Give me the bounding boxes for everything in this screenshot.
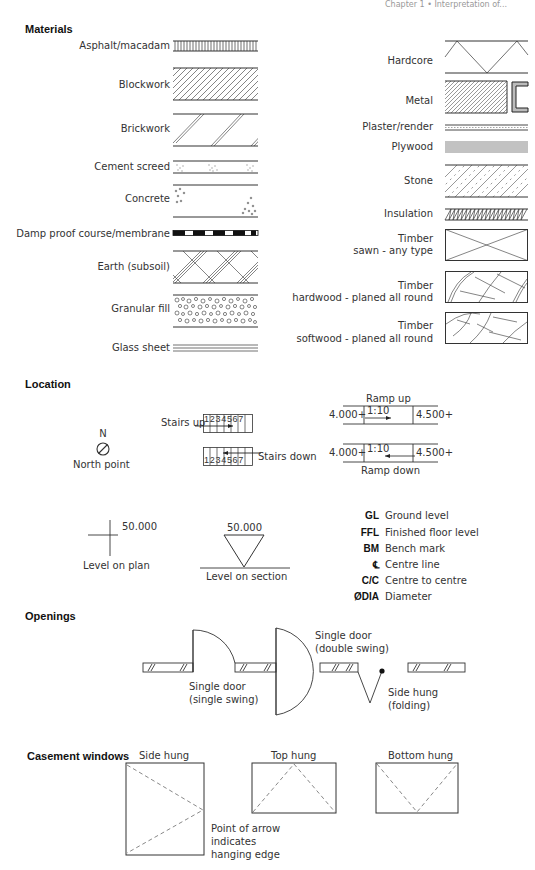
casement-note-1: Point of arrow: [211, 823, 280, 834]
north-point-label: North point: [73, 459, 130, 470]
abbr-code: GL: [345, 510, 379, 521]
top-hung-title: Top hung: [271, 750, 316, 761]
label-metal: Metal: [405, 95, 433, 106]
double-swing-line2: (double swing): [315, 643, 389, 654]
stairs-up-steps: 1234567: [204, 414, 244, 424]
side-hung-window: [125, 762, 205, 856]
hardcore-symbol: [445, 40, 528, 74]
label-stone: Stone: [404, 175, 433, 186]
abbr-meaning: Ground level: [385, 510, 449, 521]
label-granular-fill: Granular fill: [111, 303, 170, 314]
label-cement-screed: Cement screed: [94, 161, 170, 172]
level-section-value: 50.000: [227, 522, 262, 533]
concrete-symbol: [173, 184, 258, 218]
label-timber-hardwood: Timber: [398, 280, 433, 291]
label-concrete: Concrete: [125, 193, 170, 204]
label-asphalt: Asphalt/macadam: [79, 40, 170, 51]
abbr-code: ØDIA: [345, 591, 379, 602]
ramp-up-start: 4.000+: [329, 409, 366, 420]
stone-symbol: [445, 164, 528, 198]
top-hung-window: [251, 762, 337, 814]
abbr-dia: ØDIADiameter: [345, 585, 432, 604]
label-insulation: Insulation: [384, 208, 433, 219]
bottom-hung-title: Bottom hung: [388, 750, 453, 761]
label-blockwork: Blockwork: [119, 79, 170, 90]
ramp-down-title: Ramp down: [361, 465, 420, 476]
plaster-symbol: [445, 124, 528, 131]
ramp-up-title: Ramp up: [366, 393, 411, 404]
timber-hardwood-symbol: [445, 271, 528, 303]
earth-symbol: [173, 250, 258, 284]
section-title-location: Location: [25, 378, 71, 390]
level-plan-value: 50.000: [122, 521, 157, 532]
folding-line1: Side hung: [388, 687, 438, 698]
label-timber-softwood: Timber: [398, 320, 433, 331]
label-glass-sheet: Glass sheet: [112, 342, 170, 353]
stairs-down-steps: 1234567: [204, 455, 244, 465]
label-plaster: Plaster/render: [362, 121, 433, 132]
casement-note-3: hanging edge: [211, 849, 280, 860]
label-timber-hardwood-sub: hardwood - planed all round: [292, 292, 433, 303]
running-head: Chapter 1 • Interpretation of...: [385, 0, 507, 9]
step: 7: [238, 414, 244, 424]
level-section-label: Level on section: [206, 571, 287, 582]
section-title-materials: Materials: [25, 23, 73, 35]
stairs-down-label: Stairs down: [258, 451, 317, 462]
label-brickwork: Brickwork: [121, 123, 170, 134]
label-timber-softwood-sub: softwood - planed all round: [297, 333, 434, 344]
level-section-symbol: [200, 534, 290, 570]
double-swing-line1: Single door: [315, 630, 372, 641]
single-swing-line2: (single swing): [189, 694, 258, 705]
dpc-symbol: [173, 230, 258, 236]
blockwork-symbol: [173, 67, 258, 101]
ramp-down-start: 4.000+: [329, 447, 366, 458]
ramp-up-gradient: 1:10: [367, 405, 389, 416]
casement-note-2: indicates: [211, 836, 256, 847]
level-plan-label: Level on plan: [83, 560, 150, 571]
north-point-icon: [96, 442, 110, 456]
folding-line2: (folding): [388, 700, 430, 711]
abbr-meaning: Diameter: [385, 591, 432, 602]
label-earth: Earth (subsoil): [97, 261, 170, 272]
side-hung-title: Side hung: [139, 750, 189, 761]
timber-sawn-symbol: [445, 229, 528, 261]
ramp-up-end: 4.500+: [416, 409, 453, 420]
north-letter: N: [96, 428, 110, 439]
asphalt-symbol: [173, 40, 258, 52]
glass-sheet-symbol: [173, 344, 258, 352]
section-title-casement: Casement windows: [27, 750, 129, 762]
section-title-openings: Openings: [25, 610, 76, 622]
label-hardcore: Hardcore: [387, 55, 433, 66]
label-dpc: Damp proof course/membrane: [16, 228, 170, 239]
label-timber-sawn: Timber: [398, 233, 433, 244]
single-swing-line1: Single door: [189, 681, 246, 692]
plywood-symbol: [445, 141, 528, 154]
ramp-down-end: 4.500+: [416, 447, 453, 458]
ramp-down-gradient: 1:10: [367, 443, 389, 454]
metal-symbol: [445, 80, 528, 114]
insulation-symbol: [445, 208, 528, 221]
granular-fill-symbol: [173, 294, 258, 328]
brickwork-symbol: [173, 113, 258, 147]
step: 7: [238, 455, 244, 465]
bottom-hung-window: [375, 762, 459, 814]
label-timber-sawn-sub: sawn - any type: [353, 245, 433, 256]
label-plywood: Plywood: [392, 141, 434, 152]
timber-softwood-symbol: [445, 312, 528, 344]
cement-screed-symbol: [173, 160, 258, 174]
